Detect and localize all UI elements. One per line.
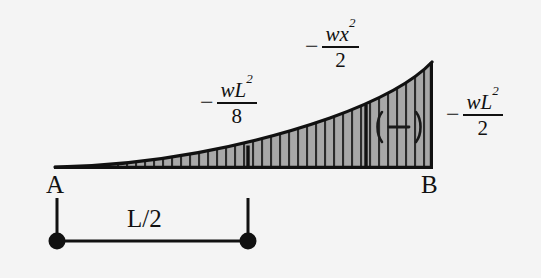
fraction-end-numerator: wL2: [463, 90, 503, 114]
fraction-mid-numerator: wL2: [217, 78, 257, 102]
label-support-b: B: [421, 172, 438, 197]
label-peak-moment: − wx2 2: [305, 22, 359, 71]
fraction-mid: wL2 8: [217, 78, 257, 127]
minus-sign-mid: −: [200, 90, 214, 114]
numerator-exp-end: 2: [492, 83, 499, 98]
fraction-end-denominator: 2: [473, 116, 492, 139]
numerator-exp-peak: 2: [349, 15, 356, 30]
label-dimension-half-span: L/2: [127, 206, 162, 231]
minus-sign-end: −: [446, 102, 460, 126]
minus-sign-peak: −: [305, 34, 319, 58]
numerator-l-mid: L: [235, 78, 247, 102]
bending-moment-diagram: − wx2 2 − wL2 8 −: [0, 0, 541, 278]
dimension-dot-left: [49, 233, 66, 250]
label-support-a: A: [46, 172, 64, 197]
dimension-dot-right: [240, 233, 257, 250]
numerator-exp-mid: 2: [246, 71, 253, 86]
fraction-peak: wx2 2: [322, 22, 360, 71]
fraction-peak-denominator: 2: [331, 48, 350, 71]
fraction-peak-numerator: wx2: [322, 22, 360, 46]
numerator-w-mid: w: [221, 78, 235, 102]
numerator-l-end: L: [481, 90, 493, 114]
label-mid-moment: − wL2 8: [200, 78, 257, 127]
fraction-mid-denominator: 8: [227, 104, 246, 127]
label-end-moment: − wL2 2: [446, 90, 503, 139]
fraction-end: wL2 2: [463, 90, 503, 139]
numerator-w-end: w: [467, 90, 481, 114]
numerator-w-peak: w: [326, 22, 340, 46]
numerator-x-peak: x: [340, 22, 349, 46]
